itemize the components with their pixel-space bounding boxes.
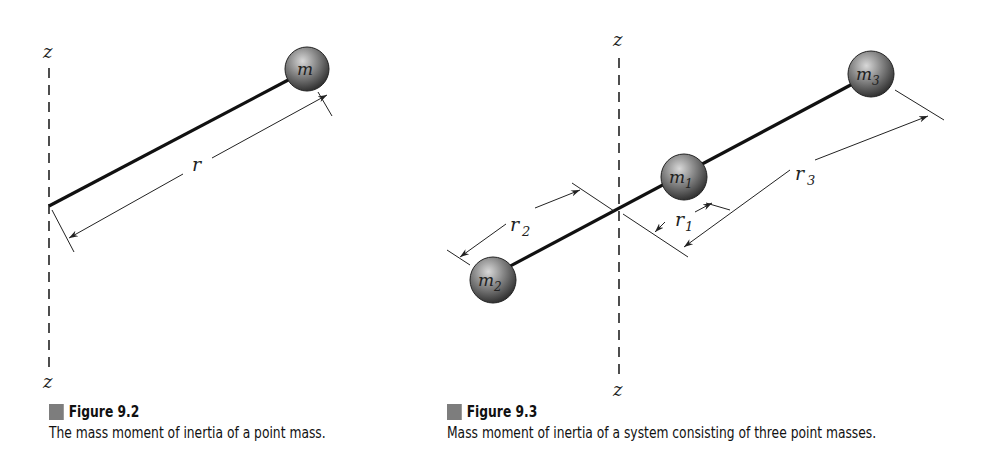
mass-label-m2: m — [478, 270, 494, 290]
mass-label-m1: m — [669, 167, 685, 187]
z-axis-label-bottom: z — [42, 371, 53, 392]
z-axis-label-bottom: z — [612, 379, 623, 400]
figure-9-2-title-row: Figure 9.2 — [49, 403, 326, 421]
figure-marker-square-icon — [49, 404, 64, 420]
distance-label-r3: r — [795, 162, 806, 184]
mass-sub-m2: 2 — [493, 280, 502, 294]
extension-line-axis-upper — [572, 183, 614, 211]
figure-9-2-description: The mass moment of inertia of a point ma… — [49, 423, 326, 443]
figure-9-2-title: Figure 9.2 — [69, 403, 140, 421]
figure-9-3-title: Figure 9.3 — [467, 403, 538, 421]
dimension-line-r3-b — [815, 116, 928, 160]
dimension-line-r1-b — [695, 203, 712, 212]
figure-9-3-caption: Figure 9.3 Mass moment of inertia of a s… — [447, 403, 970, 443]
mass-label-m3: m — [856, 64, 872, 84]
extension-line-m3 — [895, 90, 944, 120]
dimension-line-r2-a — [460, 224, 506, 257]
dimension-line-r-a — [69, 174, 183, 238]
figure-marker-square-icon — [447, 404, 462, 420]
z-axis-label-top: z — [612, 29, 623, 50]
z-axis-label-top: z — [42, 41, 53, 62]
figure-9-3-diagram: z z r 2 r 1 r 3 m 1 m 2 m 3 — [447, 29, 944, 400]
mass-sub-m1: 1 — [685, 177, 693, 191]
distance-sub-r3: 3 — [807, 173, 815, 188]
mass-label: m — [297, 59, 313, 79]
distance-label-r2: r — [510, 213, 521, 235]
figure-9-2-diagram: z z r m — [42, 41, 332, 392]
figure-9-3-description: Mass moment of inertia of a system consi… — [447, 423, 876, 443]
rod — [49, 78, 292, 206]
distance-sub-r1: 1 — [685, 219, 693, 234]
dimension-line-r1-a — [655, 222, 665, 232]
distance-label-r: r — [192, 153, 203, 175]
dimension-line-r2-b — [535, 190, 580, 208]
figure-9-2-caption: Figure 9.2 The mass moment of inertia of… — [49, 403, 386, 443]
extension-line-start — [52, 210, 74, 252]
mass-sub-m3: 3 — [872, 74, 880, 88]
dimension-line-r-b — [212, 95, 327, 158]
distance-sub-r2: 2 — [521, 224, 530, 239]
diagram-canvas: z z r m z z r 2 r 1 — [0, 0, 994, 472]
figure-9-3-title-row: Figure 9.3 — [447, 403, 876, 421]
